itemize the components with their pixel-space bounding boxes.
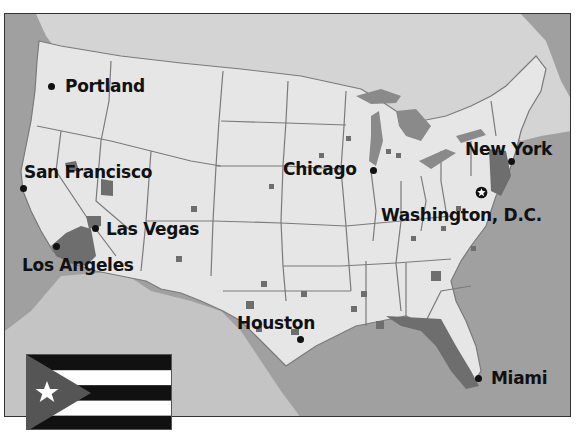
city-dot-houston <box>297 336 304 343</box>
city-dot-los-angeles <box>53 243 60 250</box>
city-dot-new-york <box>508 158 515 165</box>
cuba-flag <box>26 354 172 430</box>
city-dot-chicago <box>370 167 377 174</box>
city-label-san-francisco: San Francisco <box>24 164 152 181</box>
city-label-los-angeles: Los Angeles <box>22 257 134 274</box>
city-label-new-york: New York <box>465 141 552 158</box>
city-label-washington-dc: Washington, D.C. <box>381 207 542 224</box>
city-dot-portland <box>48 83 55 90</box>
city-dot-las-vegas <box>92 225 99 232</box>
cuba-flag-graphic <box>27 355 172 430</box>
city-dot-san-francisco <box>20 185 27 192</box>
city-label-miami: Miami <box>491 370 547 387</box>
city-label-portland: Portland <box>65 78 145 95</box>
city-label-las-vegas: Las Vegas <box>106 221 199 238</box>
city-label-chicago: Chicago <box>283 161 357 178</box>
city-label-houston: Houston <box>237 315 315 332</box>
city-dot-miami <box>475 375 482 382</box>
capital-star-icon <box>475 186 488 199</box>
